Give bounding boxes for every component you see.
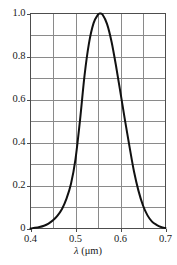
y-axis-tick-label: 1.0 xyxy=(12,7,25,18)
y-axis-tick-label: 0.4 xyxy=(12,136,25,147)
x-axis-title: λ (μm) xyxy=(0,245,176,256)
x-axis-title-unit: (μm) xyxy=(81,245,102,256)
x-axis-tick-label: 0.6 xyxy=(107,233,135,244)
x-axis-tick-label: 0.4 xyxy=(17,233,45,244)
y-axis-tick-label: 0.2 xyxy=(12,179,25,190)
y-axis-tick-label: 0.8 xyxy=(12,50,25,61)
x-axis-tick-label: 0.5 xyxy=(62,233,90,244)
x-axis-title-symbol: λ xyxy=(74,245,79,256)
x-axis-tick-label: 0.7 xyxy=(152,233,177,244)
y-axis-tick-label: 0 xyxy=(20,222,25,233)
y-axis-tick-label: 0.6 xyxy=(12,93,25,104)
chart-figure: 00.20.40.60.81.00.40.50.60.7λ (μm) xyxy=(0,0,176,265)
chart-plot-area xyxy=(0,0,176,265)
